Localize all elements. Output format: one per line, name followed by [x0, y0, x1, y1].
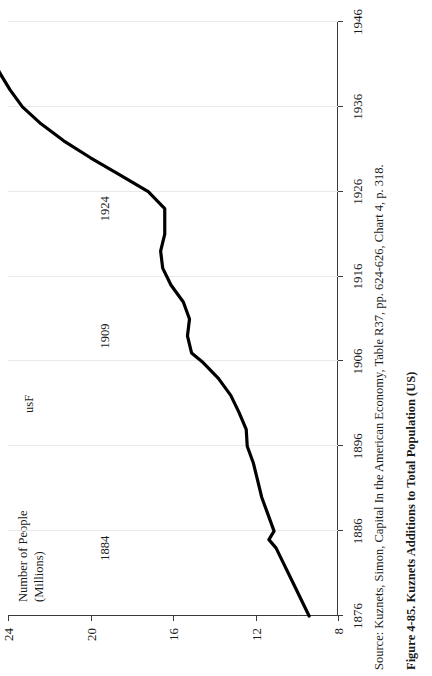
y-tick-label-24: 24	[2, 628, 15, 641]
y-tick-8	[338, 616, 339, 621]
annotation-1924: 1924	[99, 196, 112, 221]
plot-frame: 18761886189619061916192619361946 8121620…	[8, 22, 338, 616]
y-tick-24	[8, 616, 9, 621]
x-tick-label-1896: 1896	[351, 433, 364, 459]
y-tick-label-16: 16	[167, 628, 180, 641]
x-tick-1886	[338, 530, 343, 531]
y-tick-12	[256, 616, 257, 621]
x-tick-1936	[338, 106, 343, 107]
x-tick-label-1936: 1936	[351, 94, 364, 120]
x-tick-1926	[338, 191, 343, 192]
y-tick-20	[91, 616, 92, 621]
annotation-1909: 1909	[99, 323, 112, 348]
figure-caption: Figure 4-85. Kuznets Additions to Total …	[404, 372, 420, 670]
y-tick-label-8: 8	[332, 628, 345, 635]
x-tick-label-1876: 1876	[351, 603, 364, 629]
y-tick-16	[173, 616, 174, 621]
y-tick-label-12: 12	[249, 628, 262, 641]
x-tick-1916	[338, 276, 343, 277]
x-tick-label-1916: 1916	[351, 264, 364, 290]
annotation-1884: 1884	[99, 536, 112, 561]
annotation-usf: usF	[22, 395, 35, 413]
x-tick-label-1926: 1926	[351, 179, 364, 205]
x-tick-1946	[338, 21, 343, 22]
x-tick-label-1886: 1886	[351, 518, 364, 544]
chart-figure: Number of People (Millions) 187618861896…	[0, 0, 432, 676]
x-tick-label-1946: 1946	[351, 9, 364, 35]
rotated-figure-stage: Number of People (Millions) 187618861896…	[0, 0, 432, 676]
x-tick-1896	[338, 445, 343, 446]
x-tick-label-1906: 1906	[351, 348, 364, 374]
source-note: Source: Kuznets, Simon, Capital In the A…	[372, 164, 387, 670]
plot-area: 18761886189619061916192619361946 8121620…	[8, 22, 338, 616]
y-tick-label-20: 20	[84, 628, 97, 641]
x-tick-1906	[338, 360, 343, 361]
series-line-usf	[8, 22, 338, 616]
